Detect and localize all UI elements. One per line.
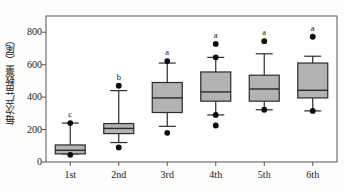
significance-letter-5th: a <box>262 28 266 37</box>
outlier-point <box>310 108 316 114</box>
boxplot-figure: 每次产苗数量（尾） 0200400600800 c1stb2nda3rda4th… <box>0 0 344 191</box>
box <box>201 72 231 101</box>
outlier-point <box>213 112 219 118</box>
x-axis-tick-label-1st: 1st <box>64 170 76 180</box>
x-axis-tick-label-3rd: 3rd <box>161 170 174 180</box>
outlier-point <box>67 120 73 126</box>
significance-letter-3rd: a <box>165 48 169 57</box>
significance-letter-1st: c <box>68 110 72 119</box>
significance-letter-2nd: b <box>117 73 121 82</box>
outlier-point <box>164 58 170 64</box>
outlier-point <box>261 107 267 113</box>
outlier-point <box>213 41 219 47</box>
outlier-point <box>116 145 122 151</box>
significance-letter-4th: a <box>214 31 218 40</box>
outlier-point <box>310 34 316 40</box>
outlier-point <box>213 123 219 129</box>
outlier-point <box>67 152 73 158</box>
x-axis-tick-label-4th: 4th <box>209 170 222 180</box>
plot-frame <box>46 16 337 162</box>
plot-area <box>0 0 344 191</box>
x-axis-tick-label-5th: 5th <box>258 170 271 180</box>
outlier-point <box>261 38 267 44</box>
significance-letter-6th: a <box>311 24 315 33</box>
outlier-point <box>164 130 170 136</box>
x-axis-tick-label-6th: 6th <box>306 170 319 180</box>
x-axis-tick-label-2nd: 2nd <box>111 170 126 180</box>
box <box>298 63 328 98</box>
outlier-point <box>116 83 122 89</box>
outlier-point <box>213 54 219 60</box>
box <box>249 75 279 101</box>
